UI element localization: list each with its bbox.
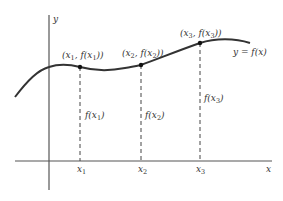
point-x1 (78, 65, 82, 69)
height-label-x2: f(x2) (144, 110, 165, 122)
curve-label: y = f(x) (232, 47, 267, 57)
height-label-x3: f(x3) (203, 93, 224, 105)
height-label-x1: f(x1) (84, 110, 105, 122)
tick-label-x3: x3 (196, 164, 205, 176)
function-graph: y x (x1, f(x1)) (x2, f(x2)) (x3, f(x3)) … (0, 0, 283, 201)
point-x3 (198, 41, 202, 45)
coord-label-x1: (x1, f(x1)) (62, 50, 104, 62)
function-curve (15, 39, 250, 97)
tick-label-x1: x1 (77, 164, 86, 176)
x-axis-label: x (266, 164, 271, 174)
point-x2 (139, 63, 143, 67)
coord-label-x3: (x3, f(x3)) (180, 28, 222, 40)
y-axis-label: y (52, 14, 59, 24)
tick-label-x2: x2 (138, 164, 147, 176)
